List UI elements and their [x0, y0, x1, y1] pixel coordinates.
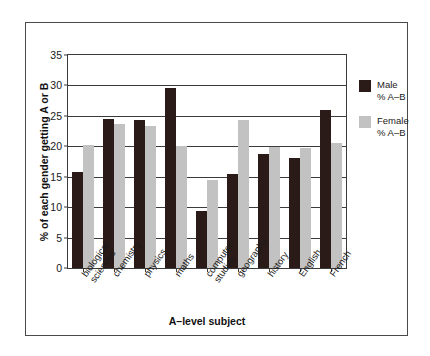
y-tick-label: 25 [50, 110, 62, 122]
y-axis-title-text: % of each gender getting A or B [38, 82, 50, 240]
bar-female [114, 124, 125, 268]
legend-label-male-line2: % A–B [377, 91, 406, 103]
bar-female [83, 145, 94, 268]
bar-group [222, 55, 253, 268]
legend-label-female-line2: % A–B [377, 127, 409, 139]
bar-male [196, 211, 207, 268]
y-tick-label: 0 [56, 262, 62, 274]
legend-label-female: Female % A–B [377, 115, 409, 139]
bar-female [300, 148, 311, 268]
plot-area: 05101520253035 biologicalscienceschemist… [67, 54, 347, 269]
bar-group [99, 55, 130, 268]
bar-group [284, 55, 315, 268]
bar-female [238, 120, 249, 268]
legend-swatch-female-icon [359, 116, 371, 128]
bar-group [68, 55, 99, 268]
bar-group [130, 55, 161, 268]
bar-group [315, 55, 346, 268]
legend-swatch-male-icon [359, 80, 371, 92]
bar-male [289, 158, 300, 268]
x-axis-title: A–level subject [67, 315, 347, 327]
legend-label-male: Male % A–B [377, 79, 406, 103]
chart-figure: % of each gender getting A or B 05101520… [25, 22, 408, 336]
y-tick-label: 10 [50, 201, 62, 213]
bar-group [253, 55, 284, 268]
bar-female [269, 147, 280, 268]
y-tick-label: 15 [50, 171, 62, 183]
legend-label-female-line1: Female [377, 115, 409, 126]
bar-male [320, 110, 331, 268]
y-tick-label: 35 [50, 49, 62, 61]
bar-female [176, 146, 187, 268]
bar-male [72, 172, 83, 268]
legend-item-female: Female % A–B [359, 115, 419, 139]
bar-series-container [68, 55, 346, 268]
y-tick-label: 5 [56, 232, 62, 244]
bar-group [192, 55, 223, 268]
legend: Male % A–B Female % A–B [359, 79, 419, 151]
legend-item-male: Male % A–B [359, 79, 419, 103]
bar-group [161, 55, 192, 268]
legend-label-male-line1: Male [377, 79, 398, 90]
bar-female [145, 126, 156, 268]
y-tick-label: 30 [50, 79, 62, 91]
bar-male [165, 88, 176, 268]
bar-female [331, 143, 342, 268]
y-tick-label: 20 [50, 140, 62, 152]
